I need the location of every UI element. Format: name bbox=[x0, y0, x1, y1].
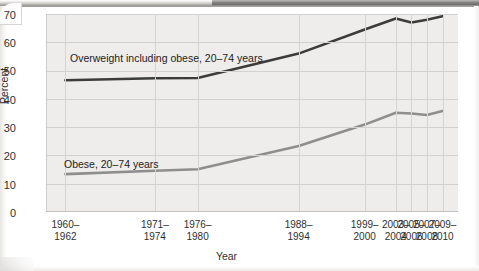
y-axis-title: Percent bbox=[0, 68, 10, 104]
x-tick-2009-2010-line2: 2010 bbox=[419, 231, 467, 243]
x-tick-1960-1962-line1: 1960– bbox=[41, 219, 89, 231]
x-axis-tick-2009-2010: 2009– 2010 bbox=[419, 219, 467, 242]
x-tick-1988-1994-line2: 1994 bbox=[275, 231, 323, 243]
x-axis-tick-1988-1994: 1988– 1994 bbox=[275, 219, 323, 242]
obese-series-annotation: Obese, 20–74 years bbox=[64, 158, 159, 171]
plot-area bbox=[46, 14, 458, 212]
y-axis-tick-70: 70 bbox=[0, 10, 16, 20]
line-chart: 70 60 50 40 30 20 10 0 Percent bbox=[0, 0, 479, 271]
x-tick-1976-1980-line1: 1976– bbox=[174, 219, 222, 231]
x-axis-line bbox=[46, 211, 458, 212]
x-tick-1988-1994-line1: 1988– bbox=[275, 219, 323, 231]
y-axis-tick-0: 0 bbox=[0, 208, 16, 218]
x-tick-1971-1974-line2: 1974 bbox=[131, 231, 179, 243]
gridline-x-2003-2004 bbox=[396, 14, 397, 212]
x-axis-tick-1971-1974: 1971– 1974 bbox=[131, 219, 179, 242]
x-tick-1971-1974-line1: 1971– bbox=[131, 219, 179, 231]
y-axis-line bbox=[46, 14, 47, 212]
gridline-x-2007-2008 bbox=[427, 14, 428, 212]
gridline-x-2005-2006 bbox=[411, 14, 412, 212]
gridline-x-1999-2000 bbox=[365, 14, 366, 212]
x-tick-1976-1980-line2: 1980 bbox=[174, 231, 222, 243]
x-axis-tick-1960-1962: 1960– 1962 bbox=[41, 219, 89, 242]
y-axis-tick-10: 10 bbox=[0, 180, 16, 190]
x-axis-tick-1976-1980: 1976– 1980 bbox=[174, 219, 222, 242]
gridline-x-1960-1962 bbox=[65, 14, 66, 212]
x-axis-title: Year bbox=[0, 250, 479, 262]
x-tick-1960-1962-line2: 1962 bbox=[41, 231, 89, 243]
y-axis-tick-20: 20 bbox=[0, 151, 16, 161]
y-axis-tick-30: 30 bbox=[0, 123, 16, 133]
gridline-x-1971-1974 bbox=[155, 14, 156, 212]
x-axis-title-text: Year bbox=[216, 250, 237, 262]
overweight-annotation-line2: 20–74 years bbox=[205, 52, 263, 64]
overweight-series-annotation: Overweight including obese, 20–74 years bbox=[70, 52, 263, 65]
obese-annotation-line1: Obese, 20–74 years bbox=[64, 158, 159, 170]
overweight-annotation-line1: Overweight including obese, bbox=[70, 52, 202, 64]
x-tick-2009-2010-line1: 2009– bbox=[419, 219, 467, 231]
gridline-x-1976-1980 bbox=[198, 14, 199, 212]
gridline-x-1988-1994 bbox=[299, 14, 300, 212]
gridline-x-2009-2010 bbox=[443, 14, 444, 212]
y-axis-tick-60: 60 bbox=[0, 38, 16, 48]
